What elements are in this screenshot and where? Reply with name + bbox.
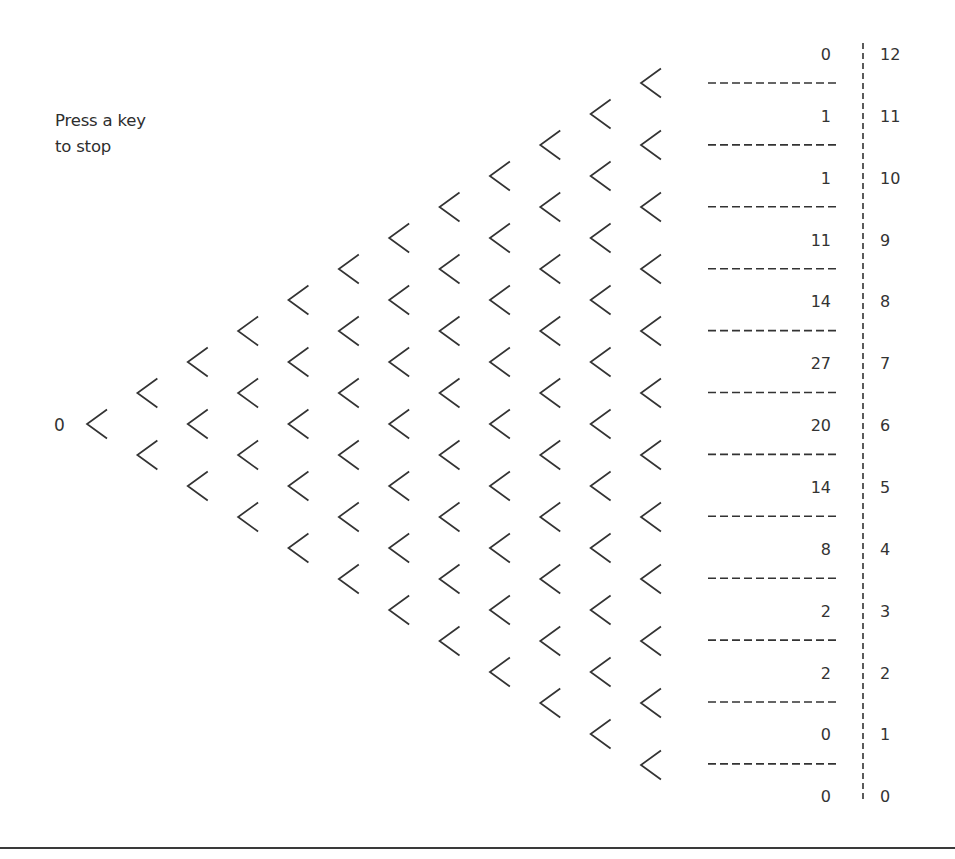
peg-chevron-icon [540,565,560,594]
peg-chevron-icon [440,627,460,656]
bin-count: 0 [771,786,831,808]
peg-chevron-icon [339,565,359,594]
bin-count: 2 [771,663,831,685]
peg-chevron-icon [389,596,409,625]
peg-chevron-icon [540,441,560,470]
peg-chevron-icon [288,348,308,377]
peg-chevron-icon [188,410,208,439]
peg-chevron-icon [389,534,409,563]
peg-chevron-icon [641,565,661,594]
peg-chevron-icon [591,100,611,129]
bin-count: 8 [771,539,831,561]
bin-count: 0 [771,724,831,746]
peg-chevron-icon [540,255,560,284]
peg-chevron-icon [188,348,208,377]
peg-chevron-icon [641,193,661,222]
peg-chevron-icon [540,193,560,222]
bin-label: 10 [880,168,920,190]
peg-chevron-icon [591,286,611,315]
peg-chevron-icon [641,131,661,160]
peg-chevron-icon [238,503,258,532]
bin-label: 7 [880,353,920,375]
bin-label: 0 [880,786,920,808]
peg-chevron-icon [490,472,510,501]
peg-chevron-icon [490,162,510,191]
peg-chevron-icon [591,658,611,687]
bin-count: 1 [771,168,831,190]
peg-chevron-icon [389,410,409,439]
peg-chevron-icon [591,348,611,377]
peg-chevron-icon [440,379,460,408]
peg-chevron-icon [389,224,409,253]
peg-chevron-icon [641,379,661,408]
peg-chevron-icon [591,534,611,563]
peg-chevron-icon [288,286,308,315]
peg-chevron-icon [591,162,611,191]
peg-chevron-icon [339,503,359,532]
peg-chevron-icon [440,255,460,284]
peg-chevron-icon [641,689,661,718]
bottom-rule [0,847,955,849]
bin-count: 27 [771,353,831,375]
peg-chevron-icon [288,534,308,563]
peg-chevron-icon [339,441,359,470]
bin-count: 2 [771,601,831,623]
peg-chevron-icon [591,410,611,439]
bin-label: 3 [880,601,920,623]
peg-chevron-icon [540,689,560,718]
peg-chevron-icon [540,379,560,408]
peg-chevron-icon [490,410,510,439]
peg-chevron-icon [490,596,510,625]
peg-chevron-icon [339,255,359,284]
bin-count: 0 [771,44,831,66]
peg-chevron-icon [440,441,460,470]
peg-chevron-icon [490,348,510,377]
bin-label: 6 [880,415,920,437]
peg-chevron-icon [540,627,560,656]
peg-chevron-icon [288,472,308,501]
peg-chevron-icon [440,565,460,594]
peg-chevron-icon [641,69,661,98]
bin-count: 11 [771,230,831,252]
bin-count: 14 [771,291,831,313]
peg-chevron-icon [540,317,560,346]
peg-chevron-icon [339,317,359,346]
bin-count: 1 [771,106,831,128]
peg-chevron-icon [641,441,661,470]
peg-chevron-icon [591,472,611,501]
peg-chevron-icon [238,379,258,408]
peg-grid [87,69,661,780]
peg-chevron-icon [238,441,258,470]
peg-chevron-icon [591,720,611,749]
peg-chevron-icon [490,658,510,687]
bin-label: 9 [880,230,920,252]
peg-chevron-icon [540,503,560,532]
peg-chevron-icon [440,503,460,532]
peg-chevron-icon [188,472,208,501]
peg-chevron-icon [641,751,661,780]
bin-count: 14 [771,477,831,499]
peg-chevron-icon [339,379,359,408]
bin-label: 8 [880,291,920,313]
peg-chevron-icon [137,441,157,470]
peg-chevron-icon [591,596,611,625]
bin-label: 4 [880,539,920,561]
peg-chevron-icon [641,255,661,284]
peg-chevron-icon [440,317,460,346]
peg-chevron-icon [641,317,661,346]
peg-chevron-icon [440,193,460,222]
peg-chevron-icon [87,410,107,439]
bin-label: 5 [880,477,920,499]
peg-chevron-icon [641,627,661,656]
peg-chevron-icon [591,224,611,253]
peg-chevron-icon [490,224,510,253]
bin-label: 2 [880,663,920,685]
peg-chevron-icon [490,534,510,563]
peg-chevron-icon [540,131,560,160]
bin-label: 1 [880,724,920,746]
peg-chevron-icon [137,379,157,408]
bin-label: 12 [880,44,920,66]
peg-chevron-icon [490,286,510,315]
bin-label: 11 [880,106,920,128]
peg-chevron-icon [238,317,258,346]
